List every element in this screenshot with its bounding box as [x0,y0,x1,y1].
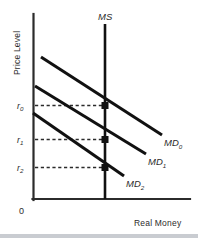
y-tick-sub-r2: 2 [19,167,24,174]
y-tick-label-r1: r1 [17,135,23,146]
y-tick-sub-r0: 0 [20,105,24,112]
y-tick-label-r2: r2 [17,163,24,174]
equilibrium-point-r0 [102,102,109,109]
money-market-figure: Price Level Real Money 0 r0 r1 r2 MS MD0… [0,0,198,238]
md2-label-base: MD [126,178,141,189]
md0-curve-label: MD0 [164,137,183,150]
money-market-chart: Price Level Real Money 0 r0 r1 r2 MS MD0… [0,0,198,238]
ms-curve-label: MS [98,11,113,22]
md0-label-sub: 0 [179,143,183,150]
md2-label-sub: 2 [140,184,145,191]
y-tick-label-r0: r0 [17,101,24,112]
md2-curve [33,113,124,176]
page-bottom-rule [0,234,198,238]
equilibrium-point-r2 [102,164,109,171]
md1-curve-label: MD1 [148,156,166,169]
y-tick-sub-r1: 1 [20,139,23,146]
y-axis-label: Price Level [12,31,22,75]
md2-curve-label: MD2 [126,178,145,191]
md0-label-base: MD [164,137,179,148]
x-axis-label: Real Money [134,218,182,228]
md1-label-base: MD [148,156,163,167]
md0-curve [41,57,162,135]
md1-curve [35,86,146,154]
md1-label-sub: 1 [163,162,166,169]
origin-label: 0 [19,206,24,216]
equilibrium-point-r1 [102,136,109,143]
